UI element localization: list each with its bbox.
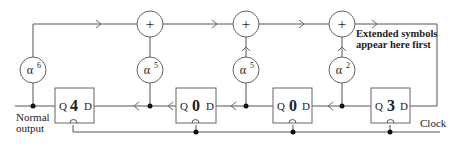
svg-text:+: + [146, 16, 154, 32]
junction-dot [148, 104, 153, 109]
svg-text:0: 0 [289, 97, 297, 114]
svg-text:Q: Q [375, 100, 383, 112]
svg-text:4: 4 [70, 97, 78, 114]
register-1: Q 4 D [55, 88, 94, 123]
svg-text:D: D [84, 100, 92, 112]
svg-text:α: α [336, 63, 343, 77]
svg-text:D: D [302, 100, 310, 112]
adder-3: + [329, 11, 355, 37]
svg-text:α: α [144, 63, 151, 77]
svg-text:Q: Q [180, 100, 188, 112]
svg-text:5: 5 [154, 61, 158, 70]
register-3: Q 0 D [273, 88, 312, 123]
svg-text:Q: Q [59, 100, 67, 112]
svg-text:+: + [242, 16, 250, 32]
clock-label: Clock [420, 117, 447, 129]
register-2: Q 0 D [176, 88, 216, 123]
extended-symbols-label: appear here first [356, 39, 431, 50]
adder-1: + [137, 11, 163, 37]
register-4: Q 3 D [371, 88, 410, 123]
lfsr-diagram: + + + α 6 α 5 α 5 α 2 [0, 0, 458, 145]
junction-dot [31, 104, 36, 109]
multiplier-alpha5-a: α 5 [137, 57, 163, 83]
svg-text:5: 5 [250, 61, 254, 70]
multiplier-alpha5-b: α 5 [233, 57, 259, 83]
clock-line [73, 125, 440, 135]
svg-text:3: 3 [387, 97, 395, 114]
svg-text:2: 2 [346, 61, 350, 70]
junction-dot [244, 104, 249, 109]
svg-text:0: 0 [192, 97, 200, 114]
svg-text:α: α [27, 63, 34, 77]
normal-output-label: output [16, 122, 44, 134]
svg-text:Q: Q [277, 100, 285, 112]
svg-text:+: + [338, 16, 346, 32]
multiplier-alpha6: α 6 [20, 57, 46, 83]
multiplier-alpha2: α 2 [329, 57, 355, 83]
svg-text:D: D [400, 100, 408, 112]
svg-text:D: D [206, 100, 214, 112]
extended-symbols-label: Extended symbols [356, 28, 437, 39]
svg-text:α: α [240, 63, 247, 77]
junction-dot [340, 104, 345, 109]
adder-2: + [233, 11, 259, 37]
svg-text:6: 6 [37, 61, 41, 70]
